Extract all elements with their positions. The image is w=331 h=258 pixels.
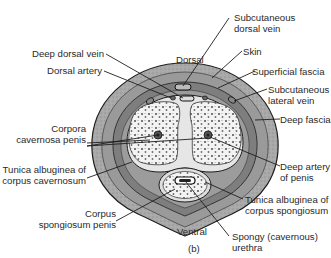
label-deep-artery: Deep artery of penis — [280, 161, 330, 183]
dorsal-artery-right — [203, 96, 208, 100]
label-line: Tunica albuginea of — [245, 194, 328, 205]
label-superficial-fascia: Superficial fascia — [252, 66, 325, 77]
label-skin: Skin — [243, 46, 262, 57]
label-tunica-albuginea-cavernosum: Tunica albuginea of corpus cavernosum — [2, 164, 86, 186]
label-line: spongiosum penis — [39, 219, 116, 230]
label-line: corpus cavernosum — [2, 175, 86, 186]
dorsal-artery-left — [171, 96, 176, 100]
label-line: corpus spongiosum — [245, 205, 328, 216]
panel-label: (b) — [188, 243, 200, 254]
label-line: Deep artery — [280, 161, 330, 172]
label-line: dorsal vein — [234, 23, 295, 34]
label-subcutaneous-lateral-vein: Subcutaneous lateral vein — [268, 84, 329, 106]
label-line: Tunica albuginea of — [2, 164, 86, 175]
label-corpora-cavernosa: Corpora cavernosa penis — [16, 123, 86, 145]
label-deep-dorsal-vein: Deep dorsal vein — [32, 48, 104, 59]
corpus-spongiosum — [163, 172, 207, 199]
deep-dorsal-vein — [180, 96, 194, 101]
label-subcutaneous-dorsal-vein: Subcutaneous dorsal vein — [234, 12, 295, 34]
label-corpus-spongiosum: Corpus spongiosum penis — [39, 208, 116, 230]
label-tunica-albuginea-spongiosum: Tunica albuginea of corpus spongiosum — [245, 194, 328, 216]
label-spongy-urethra: Spongy (cavernous) urethra — [232, 231, 318, 253]
label-dorsal-artery: Dorsal artery — [47, 65, 102, 76]
label-line: Subcutaneous — [268, 84, 329, 95]
right-corpus-cavernosum — [190, 102, 241, 165]
label-line: cavernosa penis — [16, 134, 86, 145]
label-deep-fascia: Deep fascia — [280, 114, 331, 125]
label-line: Subcutaneous — [234, 12, 295, 23]
label-line: lateral vein — [268, 95, 329, 106]
label-dorsal: Dorsal — [176, 54, 204, 65]
label-line: Corpora — [16, 123, 86, 134]
label-line: of penis — [280, 172, 330, 183]
label-line: Corpus — [39, 208, 116, 219]
subcutaneous-dorsal-vein — [175, 84, 191, 90]
label-line: urethra — [232, 242, 318, 253]
label-ventral: Ventral — [177, 226, 207, 237]
label-line: Spongy (cavernous) — [232, 231, 318, 242]
